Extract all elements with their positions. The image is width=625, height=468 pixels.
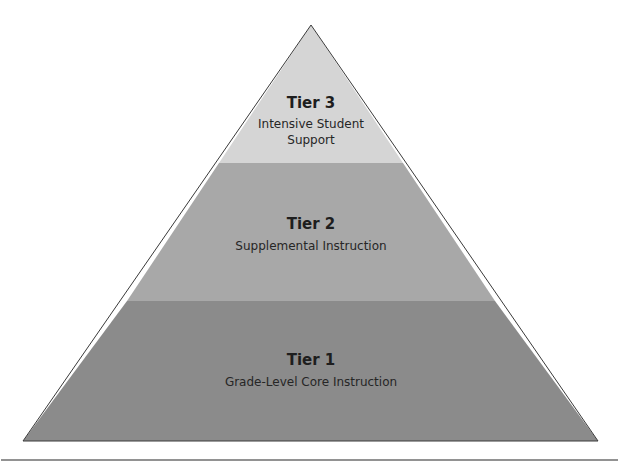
rti-pyramid-diagram: Tier 3 Intensive Student Support Tier 2 …: [0, 0, 625, 468]
tier-2-description: Supplemental Instruction: [235, 239, 386, 253]
tier-3-title: Tier 3: [287, 94, 336, 112]
tier-1-description: Grade-Level Core Instruction: [225, 375, 397, 389]
tier-1-title: Tier 1: [287, 351, 336, 369]
tier-3-description-line-1: Intensive Student: [258, 117, 364, 131]
tier-3-description-line-2: Support: [287, 133, 335, 147]
tier-2-title: Tier 2: [287, 215, 336, 233]
tier-1-band: [23, 301, 598, 441]
